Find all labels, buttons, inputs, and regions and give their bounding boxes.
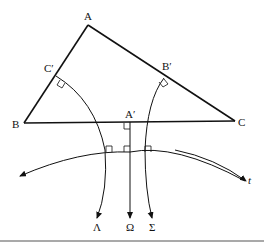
label-lambda: Λ bbox=[93, 221, 101, 233]
triangle-perpendiculars-diagram: A B C C′ B′ A′ Λ Ω Σ t bbox=[0, 0, 264, 250]
label-a: A bbox=[84, 10, 92, 22]
curve-sigma bbox=[145, 78, 164, 218]
curve-t bbox=[20, 150, 245, 181]
right-angle-lambda-t bbox=[106, 146, 112, 152]
label-t: t bbox=[248, 174, 252, 186]
label-c-prime: C′ bbox=[44, 62, 54, 74]
side-ab bbox=[24, 25, 88, 123]
label-omega: Ω bbox=[126, 221, 134, 233]
right-angle-a-prime bbox=[124, 123, 130, 129]
curve-lambda bbox=[56, 76, 106, 218]
right-angle-omega-t bbox=[124, 146, 130, 152]
diagram-svg: A B C C′ B′ A′ Λ Ω Σ t bbox=[0, 0, 264, 250]
label-b-prime: B′ bbox=[162, 60, 172, 72]
label-a-prime: A′ bbox=[125, 108, 135, 120]
label-c: C bbox=[238, 116, 245, 128]
right-angle-sigma-t bbox=[145, 146, 151, 152]
label-b: B bbox=[12, 118, 19, 130]
label-sigma: Σ bbox=[149, 221, 155, 233]
side-ac bbox=[88, 25, 235, 121]
